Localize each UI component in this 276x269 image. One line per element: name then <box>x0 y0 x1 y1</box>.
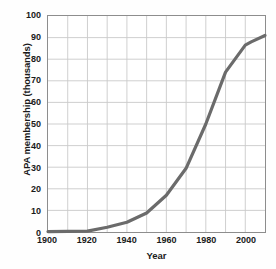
x-tick-label: 2000 <box>226 235 266 245</box>
y-tick-label: 40 <box>8 141 41 151</box>
y-tick-label: 30 <box>8 163 41 173</box>
plot-area <box>47 15 266 233</box>
x-tick-label: 1980 <box>186 235 226 245</box>
x-tick-label: 1920 <box>67 235 107 245</box>
y-tick-label: 100 <box>8 10 41 20</box>
data-line <box>48 35 265 231</box>
x-axis-title: Year <box>47 250 266 261</box>
data-line-group <box>48 16 265 232</box>
y-tick-label: 20 <box>8 184 41 194</box>
x-tick-label: 1960 <box>146 235 186 245</box>
x-tick-label: 1940 <box>107 235 147 245</box>
x-tick-label: 1900 <box>27 235 67 245</box>
chart-figure: APA membership (thousands) Year 01020304… <box>0 0 276 269</box>
y-tick-label: 80 <box>8 54 41 64</box>
y-tick-label: 10 <box>8 206 41 216</box>
y-tick-label: 70 <box>8 75 41 85</box>
y-tick-label: 60 <box>8 97 41 107</box>
y-tick-label: 50 <box>8 119 41 129</box>
y-tick-label: 90 <box>8 32 41 42</box>
